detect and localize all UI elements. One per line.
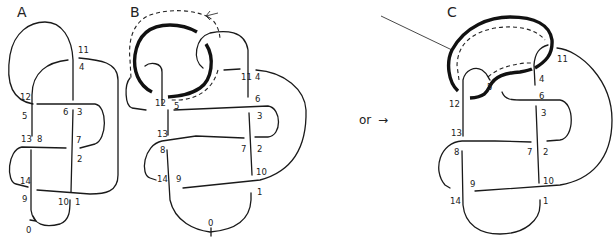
crossing-label: 1 [543,196,548,206]
strand [37,58,118,194]
crossing-label: 9 [22,194,27,204]
strand [439,141,531,188]
crossing-label: 8 [454,147,459,157]
connector: or → [359,113,388,127]
panel-b: B 11 4 12 5 6 3 13 8 7 2 1 [126,4,306,236]
strand [462,151,540,234]
strand [224,69,240,70]
connector-text: or [359,113,371,127]
crossing-label: 2 [257,144,262,154]
crossing-label: 2 [543,147,548,157]
crossing-label: 3 [77,107,82,117]
strand [249,113,252,175]
panel-a-title: A [17,4,27,20]
crossing-label: 3 [541,108,546,118]
crossing-label: 13 [157,129,168,139]
crossing-label: 8 [160,145,165,155]
crossing-label: 14 [157,174,168,184]
crossing-label: 8 [37,134,42,144]
crossing-label: 12 [20,92,31,102]
crossing-label: 7 [527,147,532,157]
crossing-label: 10 [256,167,267,177]
strand [37,104,104,148]
crossing-label: 11 [557,54,568,64]
crossing-label: 4 [79,62,84,72]
crossing-label: 7 [241,144,246,154]
strand [9,22,73,104]
crossing-label: 12 [155,98,166,108]
crossing-label: 14 [450,196,461,206]
highlighted-arc [168,44,211,97]
crossing-label: 11 [78,45,89,55]
highlighted-arc [470,69,532,98]
crossing-label: 6 [539,91,544,101]
panel-a: A 11 4 12 5 6 3 13 8 7 2 14 9 10 1 0 [9,4,118,235]
crossing-label: 9 [176,174,181,184]
dashed-path [130,11,208,78]
pointer-arrow-icon [206,11,218,20]
strand [196,32,248,97]
strand [71,110,73,192]
strand [463,68,490,136]
dashed-path [208,17,220,40]
highlighted-arc [135,25,197,92]
crossing-label: 0 [26,225,31,235]
crossing-label: 5 [22,111,27,121]
dashed-path [457,27,545,80]
panel-b-title: B [130,4,140,20]
crossing-label: 11 [241,72,252,82]
crossing-label: 6 [63,107,68,117]
crossing-label: 0 [208,218,213,228]
crossing-label: 13 [21,134,32,144]
strand [475,48,612,191]
crossing-label: 9 [470,179,475,189]
crossing-label: 13 [451,128,462,138]
strand [31,150,70,226]
panel-c: C 11 4 5 6 12 3 13 8 7 2 10 9 14 [381,4,612,234]
crossing-label: 2 [77,154,82,164]
crossing-label: 10 [58,197,69,207]
crossing-label: 7 [76,135,81,145]
right-arrow-icon: → [378,113,388,127]
crossing-label: 5 [174,101,179,111]
knot-diagram-svg: A 11 4 12 5 6 3 13 8 7 2 14 9 10 1 0 B [0,0,616,244]
strand [32,60,68,136]
knot-diagram-figure: A 11 4 12 5 6 3 13 8 7 2 14 9 10 1 0 B [0,0,616,244]
crossing-label: 6 [255,94,260,104]
crossing-label: 3 [257,111,262,121]
strand [536,106,539,183]
crossing-label: 10 [543,176,554,186]
crossing-label: 12 [449,99,460,109]
strand [174,106,279,137]
strand [9,147,66,187]
crossing-label: 1 [75,197,80,207]
crossing-label: 14 [20,176,31,186]
crossing-label: 1 [257,187,262,197]
direction-arrow-icon [30,216,36,221]
crossing-label: 4 [255,72,260,82]
crossing-label: 4 [539,74,544,84]
crossing-label: 5 [487,82,492,92]
panel-c-title: C [447,4,457,20]
pointer-line [381,16,452,50]
